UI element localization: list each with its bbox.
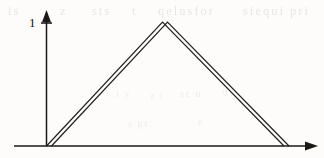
y-axis-tick-label-1: 1 xyxy=(29,16,36,29)
x-axis-arrowhead xyxy=(305,141,318,150)
x-axis xyxy=(14,141,318,150)
figure-container: is z sts t qelusfor siequi pri i y z i s… xyxy=(0,0,324,158)
waveform-trace-primary xyxy=(47,22,285,146)
waveform-plot-svg xyxy=(0,0,324,158)
y-axis-arrowhead xyxy=(42,10,51,22)
waveform-trace-secondary xyxy=(52,22,290,146)
triangular-waveform xyxy=(47,22,290,146)
y-axis xyxy=(41,10,52,146)
